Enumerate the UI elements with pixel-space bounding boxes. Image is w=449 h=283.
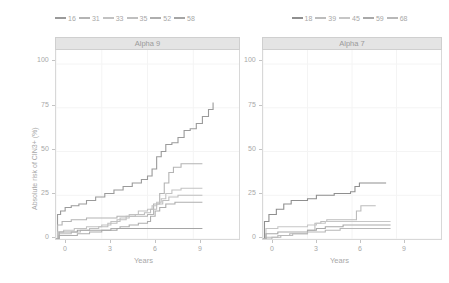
y-tick-mark-100 (52, 60, 55, 61)
legend-line-icon (127, 17, 138, 19)
legend-label: 33 (116, 15, 124, 22)
legend-entry-45[interactable]: 45 (339, 15, 360, 22)
legend-label: 45 (352, 15, 360, 22)
x-tick-mark-3 (110, 240, 111, 243)
legend-alpha-7: 1839455968 (250, 12, 449, 24)
y-tick-label-75: 75 (41, 101, 49, 108)
x2-tick-mark-6 (360, 240, 361, 243)
y-tick-mark-25 (52, 193, 55, 194)
y-tick-mark-75 (52, 105, 55, 106)
legend-entry-18[interactable]: 18 (292, 15, 313, 22)
legend-label: 18 (305, 15, 313, 22)
legend-label: 31 (92, 15, 100, 22)
y2-tick-label-100: 100 (244, 56, 256, 63)
facet-alpha-7: 1839455968 Alpha 7 100 75 50 25 0 0 3 6 … (250, 0, 449, 283)
y2-tick-label-0: 0 (252, 233, 256, 240)
legend-line-icon (292, 17, 303, 19)
legend-line-icon (150, 17, 161, 19)
x2-tick-mark-0 (272, 240, 273, 243)
x2-tick-label-0: 0 (270, 245, 274, 252)
series-line-52 (56, 202, 202, 239)
legend-label: 52 (163, 15, 171, 22)
x-tick-mark-6 (155, 240, 156, 243)
figure-root: 163133355258 Alpha 9 Absolute risk of CI… (0, 0, 449, 283)
legend-entry-16[interactable]: 16 (55, 15, 76, 22)
legend-line-icon (387, 17, 398, 19)
legend-label: 68 (400, 15, 408, 22)
legend-entry-35[interactable]: 35 (127, 15, 148, 22)
y-tick-mark-50 (52, 149, 55, 150)
legend-line-icon (339, 17, 350, 19)
y2-tick-mark-50 (259, 149, 262, 150)
legend-alpha-9: 163133355258 (0, 12, 250, 24)
y-tick-label-25: 25 (41, 189, 49, 196)
facet-alpha-9: 163133355258 Alpha 9 Absolute risk of CI… (0, 0, 250, 283)
legend-label: 16 (68, 15, 76, 22)
legend-label: 35 (140, 15, 148, 22)
series-line-33 (56, 188, 202, 239)
plot-panel-alpha-9 (55, 50, 240, 240)
x-tick-label-0: 0 (63, 245, 67, 252)
legend-line-icon (363, 17, 374, 19)
panel-title-alpha-9: Alpha 9 (135, 40, 160, 48)
y-tick-label-50: 50 (41, 145, 49, 152)
edge-artifact (6, 246, 8, 252)
legend-line-icon (174, 17, 185, 19)
legend-entry-52[interactable]: 52 (150, 15, 171, 22)
y2-tick-label-75: 75 (248, 101, 256, 108)
x2-tick-label-6: 6 (358, 245, 362, 252)
legend-entry-31[interactable]: 31 (79, 15, 100, 22)
x2-axis-title: Years (330, 256, 349, 265)
legend-line-icon (103, 17, 114, 19)
series-line-31 (56, 164, 202, 239)
y-tick-mark-0 (52, 237, 55, 238)
series-line-68 (263, 229, 391, 240)
x-tick-label-9: 9 (198, 245, 202, 252)
y2-tick-mark-25 (259, 193, 262, 194)
legend-line-icon (315, 17, 326, 19)
plot-area-alpha-7 (263, 50, 441, 239)
y-axis-title: Absolute risk of CIN3+ (%) (31, 127, 38, 210)
x2-tick-label-9: 9 (402, 245, 406, 252)
legend-entry-58[interactable]: 58 (174, 15, 195, 22)
panel-title-alpha-7: Alpha 7 (339, 40, 364, 48)
series-line-18 (263, 183, 386, 239)
legend-label: 59 (376, 15, 384, 22)
series-line-16 (56, 103, 213, 240)
legend-entry-33[interactable]: 33 (103, 15, 124, 22)
y-tick-label-0: 0 (45, 233, 49, 240)
y2-tick-mark-75 (259, 105, 262, 106)
x-tick-mark-9 (200, 240, 201, 243)
legend-line-icon (55, 17, 66, 19)
y2-tick-label-25: 25 (248, 189, 256, 196)
legend-entry-39[interactable]: 39 (315, 15, 336, 22)
legend-entry-59[interactable]: 59 (363, 15, 384, 22)
y2-tick-mark-0 (259, 237, 262, 238)
panel-strip-alpha-7: Alpha 7 (262, 37, 442, 50)
plot-panel-alpha-7 (262, 50, 442, 240)
panel-strip-alpha-9: Alpha 9 (55, 37, 240, 50)
x2-tick-mark-9 (404, 240, 405, 243)
series-line-39 (263, 206, 376, 239)
plot-area-alpha-9 (56, 50, 239, 239)
legend-label: 58 (187, 15, 195, 22)
x2-tick-label-3: 3 (314, 245, 318, 252)
legend-label: 39 (328, 15, 336, 22)
x-tick-mark-0 (65, 240, 66, 243)
x-tick-label-3: 3 (108, 245, 112, 252)
x2-tick-mark-3 (316, 240, 317, 243)
legend-entry-68[interactable]: 68 (387, 15, 408, 22)
legend-line-icon (79, 17, 90, 19)
y2-tick-mark-100 (259, 60, 262, 61)
y2-tick-label-50: 50 (248, 145, 256, 152)
y-tick-label-100: 100 (37, 56, 49, 63)
x-axis-title: Years (134, 256, 153, 265)
x-tick-label-6: 6 (153, 245, 157, 252)
